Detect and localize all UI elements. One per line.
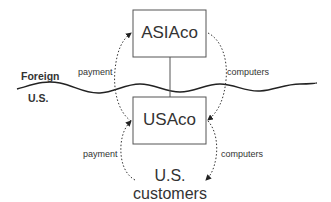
usaco-label: USAco [133,110,206,130]
us-customers-line2: customers [130,185,210,202]
border-line [17,82,316,93]
diagram-canvas: ASIAco USAco Foreign U.S. payment comput… [0,0,331,202]
asiaco-label: ASIAco [133,23,206,43]
upper-payment-label: payment [78,67,113,77]
upper-payment-arrow [115,33,131,121]
region-foreign-label: Foreign [21,70,60,82]
upper-computers-arrow [208,33,226,120]
upper-computers-label: computers [227,67,269,77]
us-customers-line1: U.S. [130,167,210,185]
lower-computers-label: computers [221,149,263,159]
lower-payment-label: payment [83,149,118,159]
us-customers-node: U.S. customers [130,167,210,202]
region-us-label: U.S. [28,92,48,104]
